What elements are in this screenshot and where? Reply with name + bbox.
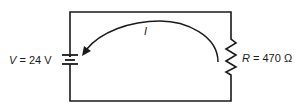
- battery-value-label: = 24 V: [16, 54, 52, 66]
- resistor-value-label: = 470 Ω: [250, 52, 292, 64]
- circuit-diagram: I V = 24 V R = 470 Ω: [0, 0, 299, 109]
- battery-label: V = 24 V: [9, 54, 52, 66]
- bottom-wire: [70, 64, 231, 101]
- resistor-symbol: [226, 37, 236, 76]
- current-label: I: [144, 25, 147, 37]
- wires: [70, 12, 231, 101]
- resistor-label: R = 470 Ω: [242, 52, 292, 64]
- arrowhead-icon: [82, 46, 91, 56]
- battery-symbol: [62, 55, 78, 64]
- resistor-symbol-label: R: [242, 52, 250, 64]
- top-wire: [70, 12, 231, 57]
- current-arrow: [86, 21, 218, 62]
